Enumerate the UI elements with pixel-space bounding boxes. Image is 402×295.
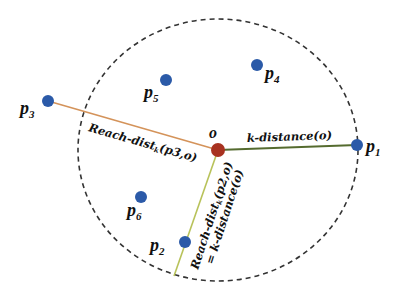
point-p5	[160, 74, 172, 86]
lof-diagram: o p1 p2 p3 p4 p5 p6 k-distance(o) Reach-…	[0, 0, 402, 295]
label-p4: p4	[263, 63, 280, 85]
point-p6	[135, 191, 147, 203]
label-k-distance: k-distance(o)	[247, 128, 333, 145]
point-p1	[351, 139, 363, 151]
label-p3: p3	[18, 98, 35, 120]
point-p2	[179, 236, 191, 248]
point-o	[211, 143, 225, 157]
edge-o-p1	[218, 145, 357, 150]
label-p2: p2	[148, 235, 165, 257]
label-p1: p1	[364, 136, 381, 158]
point-p4	[251, 59, 263, 71]
point-p3	[42, 95, 54, 107]
label-reach-dist-p3: Reach-distk(p3,o)	[86, 120, 199, 166]
label-o: o	[209, 124, 217, 141]
label-p6: p6	[125, 200, 142, 222]
label-p5: p5	[142, 82, 159, 104]
